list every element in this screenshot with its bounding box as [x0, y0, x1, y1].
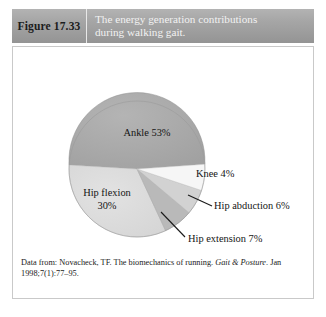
- source-line-1-suffix: .: [266, 258, 268, 267]
- figure-number-label: Figure 17.33: [18, 20, 81, 32]
- pie-chart-area: Ankle 53% Hip flexion 30% Knee 4% Hip ab…: [13, 47, 313, 253]
- source-line-1-prefix: Data from: Novacheck, TF. The biomechani…: [21, 258, 215, 267]
- pie-label-hip-abduction: Hip abduction 6%: [214, 200, 314, 212]
- figure-body-panel: Ankle 53% Hip flexion 30% Knee 4% Hip ab…: [12, 46, 314, 299]
- figure-header: Figure 17.33 The energy generation contr…: [12, 9, 314, 43]
- figure-title-line-1: The energy generation contributions: [95, 13, 314, 27]
- pie-chart-svg: [13, 47, 313, 253]
- pie-label-hip-flexion-line-1: Hip flexion: [83, 187, 131, 198]
- pie-label-ankle: Ankle 53%: [99, 127, 195, 139]
- pie-label-hip-extension: Hip extension 7%: [188, 233, 288, 245]
- pie-label-hip-flexion: Hip flexion 30%: [57, 187, 157, 212]
- figure-number-cell: Figure 17.33: [12, 9, 87, 43]
- source-journal-name: Gait & Posture: [215, 258, 266, 267]
- source-citation: Data from: Novacheck, TF. The biomechani…: [21, 257, 309, 279]
- figure-title-cell: The energy generation contributions duri…: [87, 9, 314, 43]
- pie-label-hip-flexion-line-2: 30%: [97, 200, 116, 211]
- figure-title-line-2: during walking gait.: [95, 26, 314, 40]
- figure-container: Figure 17.33 The energy generation contr…: [0, 0, 326, 317]
- pie-label-knee: Knee 4%: [196, 168, 268, 180]
